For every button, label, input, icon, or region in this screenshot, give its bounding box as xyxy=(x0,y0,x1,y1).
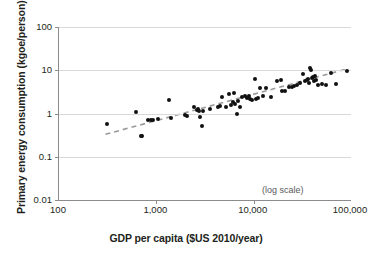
data-point xyxy=(261,94,265,98)
data-point xyxy=(238,105,242,109)
data-point xyxy=(140,134,144,138)
gridline-y xyxy=(59,114,351,115)
data-point xyxy=(256,96,260,100)
data-point xyxy=(105,122,109,126)
gridline-y xyxy=(59,70,351,71)
data-point xyxy=(298,81,302,85)
plot-area xyxy=(58,27,351,201)
data-point xyxy=(220,95,224,99)
y-tick-mark xyxy=(55,157,59,158)
data-point xyxy=(156,117,160,121)
x-tick-label: 100,000 xyxy=(315,205,372,215)
x-axis-title: GDP per capita ($US 2010/year) xyxy=(0,232,372,244)
chart-figure: Primary energy consumption (kgoe/person)… xyxy=(0,0,372,257)
data-point xyxy=(151,118,155,122)
data-point xyxy=(227,92,231,96)
data-point xyxy=(301,72,305,76)
data-point xyxy=(200,124,204,128)
data-point xyxy=(309,68,313,72)
data-point xyxy=(314,78,318,82)
data-point xyxy=(167,98,171,102)
y-tick-mark xyxy=(55,114,59,115)
log-scale-annotation: (log scale) xyxy=(262,185,304,195)
data-point xyxy=(324,83,328,87)
data-point xyxy=(283,89,287,93)
data-point xyxy=(236,99,240,103)
gridline-y xyxy=(59,27,351,28)
y-tick-label: 0.01 xyxy=(12,195,52,205)
data-point xyxy=(269,95,273,99)
data-point xyxy=(264,86,268,90)
data-point xyxy=(307,81,311,85)
y-tick-label: 1 xyxy=(12,109,52,119)
data-point xyxy=(218,104,222,108)
y-tick-mark xyxy=(55,27,59,28)
gridline-y xyxy=(59,157,351,158)
x-tick-label: 10,000 xyxy=(218,205,288,215)
data-point xyxy=(232,91,236,95)
x-tick-label: 1,000 xyxy=(120,205,190,215)
data-point xyxy=(253,77,257,81)
data-point xyxy=(169,116,173,120)
data-point xyxy=(198,115,202,119)
data-point xyxy=(334,82,338,86)
data-point xyxy=(329,71,333,75)
x-tick-label: 100 xyxy=(23,205,93,215)
data-point xyxy=(279,78,283,82)
data-point xyxy=(345,69,349,73)
y-tick-mark xyxy=(55,70,59,71)
data-point xyxy=(224,105,228,109)
data-point xyxy=(208,107,212,111)
data-point xyxy=(201,109,205,113)
data-point xyxy=(185,114,189,118)
y-tick-label: 10 xyxy=(12,65,52,75)
data-point xyxy=(258,86,262,90)
y-tick-label: 0.1 xyxy=(12,152,52,162)
data-point xyxy=(235,112,239,116)
y-tick-label: 100 xyxy=(12,22,52,32)
y-tick-mark xyxy=(55,200,59,201)
